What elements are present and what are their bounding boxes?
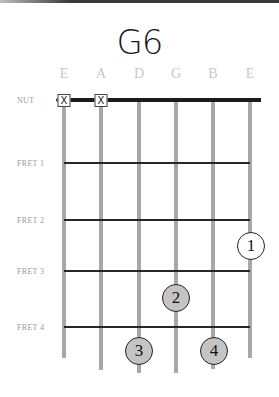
finger-2-marker: 2 bbox=[162, 284, 190, 312]
string-label-d: D bbox=[134, 66, 144, 82]
fret-3 bbox=[64, 270, 250, 272]
string-d bbox=[137, 100, 141, 373]
fret-1 bbox=[64, 162, 250, 164]
mute-icon-low-e: X bbox=[58, 94, 71, 107]
fret-label-4: FRET 4 bbox=[17, 323, 44, 332]
string-label-b: B bbox=[208, 66, 217, 82]
string-g bbox=[174, 100, 178, 373]
fret-2 bbox=[64, 219, 250, 221]
string-label-a: A bbox=[96, 66, 106, 82]
string-label-g: G bbox=[171, 66, 181, 82]
string-b bbox=[211, 100, 215, 369]
nut bbox=[58, 98, 261, 102]
chord-title: G6 bbox=[0, 22, 279, 62]
string-low-e bbox=[62, 100, 66, 358]
top-border bbox=[0, 0, 279, 3]
string-a bbox=[99, 100, 103, 370]
finger-3-marker: 3 bbox=[125, 337, 153, 365]
finger-1-marker: 1 bbox=[237, 232, 265, 260]
mute-icon-a: X bbox=[95, 94, 108, 107]
finger-4-marker: 4 bbox=[200, 337, 228, 365]
string-label-low-e: E bbox=[60, 66, 69, 82]
fret-label-1: FRET 1 bbox=[17, 159, 44, 168]
fret-label-2: FRET 2 bbox=[17, 216, 44, 225]
string-high-e bbox=[248, 100, 252, 358]
string-label-high-e: E bbox=[246, 66, 255, 82]
fret-4 bbox=[64, 326, 250, 328]
fret-label-3: FRET 3 bbox=[17, 267, 44, 276]
nut-label: NUT bbox=[17, 96, 34, 105]
